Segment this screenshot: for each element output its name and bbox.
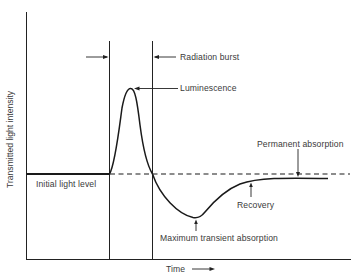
time-arrow-icon	[192, 267, 215, 271]
recovery-label: Recovery	[237, 201, 274, 210]
permanent-absorption-label: Permanent absorption	[257, 140, 344, 149]
y-axis-label: Transmitted light intensity	[6, 91, 15, 188]
x-axis-label: Time	[166, 265, 185, 274]
max-absorption-arrow-icon	[194, 220, 198, 232]
luminescence-arrow-icon	[134, 87, 178, 91]
luminescence-label: Luminescence	[180, 84, 237, 93]
maximum-transient-absorption-label: Maximum transient absorption	[160, 234, 278, 243]
radiation-burst-arrow-right-icon	[154, 55, 177, 59]
recovery-arrow-icon	[249, 183, 253, 198]
initial-light-level-label: Initial light level	[36, 180, 96, 189]
radiation-burst-arrow-left-icon	[86, 55, 109, 59]
radiation-burst-label: Radiation burst	[180, 53, 239, 62]
transmitted-intensity-curve	[110, 88, 329, 217]
permanent-absorption-arrow-icon	[296, 149, 300, 177]
